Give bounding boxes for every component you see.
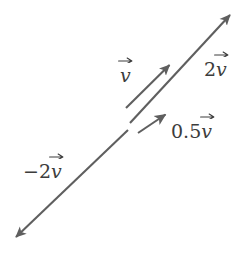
label-2v-coefficient: 2 bbox=[204, 58, 216, 80]
vector-symbol-2v: v bbox=[216, 60, 227, 79]
vector-symbol-v: v bbox=[120, 66, 131, 85]
vector-canvas bbox=[0, 0, 250, 256]
label-v-text: v bbox=[120, 64, 131, 86]
label-half-v-symbol: v bbox=[201, 120, 212, 142]
vector-symbol-neg-2v: v bbox=[51, 162, 62, 181]
label-neg-2v-symbol: v bbox=[51, 160, 62, 182]
vector-neg-2v-line bbox=[16, 130, 128, 237]
label-2v-symbol: v bbox=[216, 58, 227, 80]
vector-symbol-half-v: v bbox=[201, 122, 212, 141]
vector-half-v-line bbox=[138, 115, 166, 134]
label-neg-2v-coefficient: −2 bbox=[23, 160, 51, 182]
label-half-v: 0.5 v bbox=[171, 122, 212, 141]
label-half-v-coefficient: 0.5 bbox=[171, 120, 201, 142]
vector-diagram-figure: v 2 v 0.5 v −2 v bbox=[0, 0, 250, 256]
label-v: v bbox=[120, 66, 131, 85]
label-2v: 2 v bbox=[204, 60, 227, 79]
label-neg-2v: −2 v bbox=[23, 162, 62, 181]
